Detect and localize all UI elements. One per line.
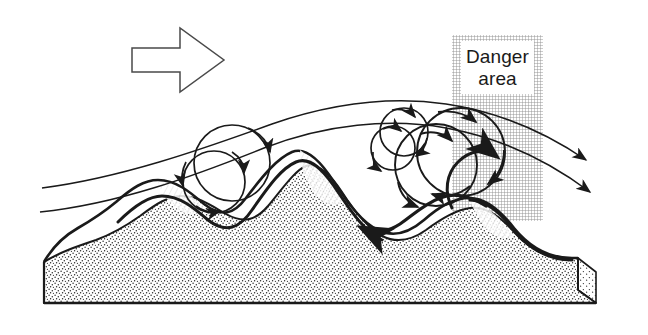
diagram-canvas: Danger area (0, 0, 648, 335)
rotor-upwind-inner (183, 151, 245, 213)
rotor-upwind-outer (194, 125, 270, 201)
rotor-lee-small-lower (371, 126, 415, 170)
wind-direction-arrow (132, 28, 224, 92)
mountain-wave-diagram (0, 0, 648, 335)
